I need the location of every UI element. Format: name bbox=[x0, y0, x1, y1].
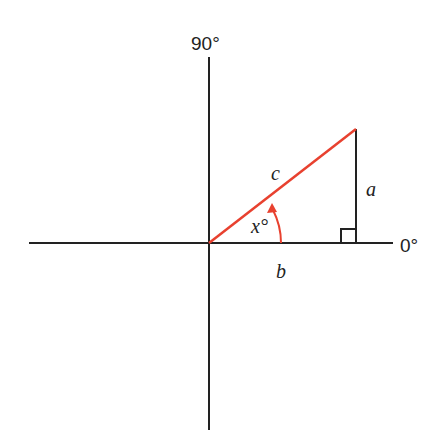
triangle-diagram: 90° 0° c a b x° bbox=[0, 0, 446, 434]
angle-arc bbox=[273, 210, 281, 243]
label-angle-x: x° bbox=[250, 215, 268, 237]
right-angle-marker bbox=[341, 229, 356, 243]
label-0-degrees: 0° bbox=[400, 235, 418, 256]
label-b: b bbox=[276, 260, 286, 282]
label-a: a bbox=[366, 178, 376, 200]
label-90-degrees: 90° bbox=[191, 33, 220, 54]
label-c: c bbox=[271, 162, 280, 184]
hypotenuse-c bbox=[209, 129, 356, 243]
angle-arrowhead-icon bbox=[267, 203, 277, 213]
